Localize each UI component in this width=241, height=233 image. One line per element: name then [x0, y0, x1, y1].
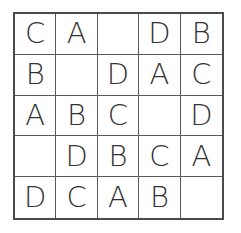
puzzle-grid: C A D B B D A C A B C D D B C A D C A B	[13, 12, 224, 220]
grid-cell-r4c1[interactable]	[15, 136, 56, 177]
grid-cell-r3c2[interactable]: B	[56, 96, 97, 137]
grid-cell-r2c3[interactable]: D	[98, 55, 139, 96]
grid-cell-r1c5[interactable]: B	[181, 14, 222, 55]
grid-cell-r4c4[interactable]: C	[139, 136, 180, 177]
grid-cell-r2c1[interactable]: B	[15, 55, 56, 96]
grid-cell-r4c5[interactable]: A	[181, 136, 222, 177]
grid-cell-r2c2[interactable]	[56, 55, 97, 96]
grid-cell-r2c5[interactable]: C	[181, 55, 222, 96]
grid-cell-r1c1[interactable]: C	[15, 14, 56, 55]
grid-cell-r3c1[interactable]: A	[15, 96, 56, 137]
grid-cell-r5c3[interactable]: A	[98, 177, 139, 218]
grid-cell-r4c3[interactable]: B	[98, 136, 139, 177]
grid-cell-r5c2[interactable]: C	[56, 177, 97, 218]
grid-cell-r5c4[interactable]: B	[139, 177, 180, 218]
grid-cell-r3c3[interactable]: C	[98, 96, 139, 137]
grid-cell-r2c4[interactable]: A	[139, 55, 180, 96]
grid-cell-r1c3[interactable]	[98, 14, 139, 55]
grid-cell-r4c2[interactable]: D	[56, 136, 97, 177]
grid-cell-r1c4[interactable]: D	[139, 14, 180, 55]
grid-cell-r5c5[interactable]	[181, 177, 222, 218]
grid-cell-r3c5[interactable]: D	[181, 96, 222, 137]
grid-cell-r5c1[interactable]: D	[15, 177, 56, 218]
grid-cell-r3c4[interactable]	[139, 96, 180, 137]
grid-cell-r1c2[interactable]: A	[56, 14, 97, 55]
